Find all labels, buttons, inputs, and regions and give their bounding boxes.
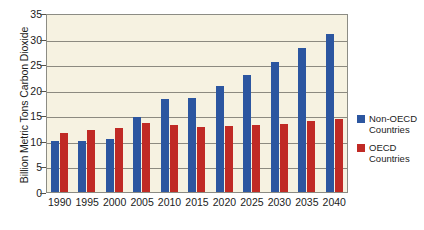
bar-oecd	[87, 130, 95, 192]
bar-oecd	[197, 127, 205, 192]
bar-oecd	[252, 125, 260, 192]
bar-non-oecd	[78, 141, 86, 192]
bar-chart-figure: Billion Metric Tons Carbon Dioxide 05101…	[0, 0, 424, 230]
y-tick-label: 35	[20, 8, 42, 20]
legend-swatch-non-oecd	[357, 115, 365, 123]
bar-oecd	[225, 126, 233, 192]
y-tick-label: 5	[20, 161, 42, 173]
bar-group	[322, 15, 349, 192]
bar-group	[129, 15, 156, 192]
y-tick-label: 15	[20, 110, 42, 122]
legend-swatch-oecd	[357, 144, 365, 152]
bar-oecd	[170, 125, 178, 193]
y-tick-label: 30	[20, 34, 42, 46]
bar-group	[74, 15, 101, 192]
bar-group	[157, 15, 184, 192]
chart-legend: Non-OECDCountriesOECDCountries	[357, 113, 423, 171]
y-tick-mark	[40, 193, 46, 194]
x-tick-label: 2040	[314, 196, 354, 208]
legend-label: OECDCountries	[369, 142, 410, 164]
legend-entry: OECDCountries	[357, 142, 423, 164]
bar-group	[47, 15, 74, 192]
y-tick-label: 10	[20, 136, 42, 148]
bar-oecd	[142, 123, 150, 192]
bar-oecd	[60, 133, 68, 192]
bar-group	[184, 15, 211, 192]
bar-oecd	[280, 124, 288, 192]
legend-label: Non-OECDCountries	[369, 113, 417, 135]
bar-non-oecd	[243, 75, 251, 192]
y-tick-label: 20	[20, 85, 42, 97]
bar-group	[102, 15, 129, 192]
bar-non-oecd	[51, 141, 59, 192]
bar-oecd	[115, 128, 123, 192]
bar-non-oecd	[216, 86, 224, 192]
legend-entry: Non-OECDCountries	[357, 113, 423, 135]
y-tick-label: 25	[20, 59, 42, 71]
bar-non-oecd	[106, 139, 114, 192]
bar-oecd	[335, 119, 343, 192]
bar-non-oecd	[326, 34, 334, 192]
bar-non-oecd	[161, 99, 169, 192]
plot-area	[46, 14, 348, 193]
bar-group	[267, 15, 294, 192]
bar-oecd	[307, 121, 315, 192]
bar-non-oecd	[188, 98, 196, 192]
bar-non-oecd	[298, 48, 306, 192]
bar-group	[239, 15, 266, 192]
y-tick-label: 0	[20, 187, 42, 199]
bar-non-oecd	[271, 62, 279, 192]
bar-non-oecd	[133, 117, 141, 192]
bar-group	[294, 15, 321, 192]
bar-group	[212, 15, 239, 192]
